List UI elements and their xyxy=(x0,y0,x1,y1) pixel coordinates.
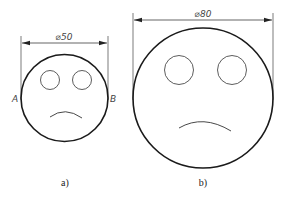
point-label-a: A xyxy=(11,94,18,104)
point-label-b: B xyxy=(110,94,116,104)
figure-a: ⌀50 A B a) xyxy=(11,32,116,189)
figure-b: ⌀80 b) xyxy=(133,9,273,189)
diagram-canvas: ⌀50 A B a) ⌀80 b) xyxy=(0,0,286,203)
dimension-label: ⌀50 xyxy=(56,32,73,42)
right-eye xyxy=(218,56,247,85)
face-outline xyxy=(21,55,108,142)
face-outline xyxy=(133,28,273,168)
frown-mouth xyxy=(50,112,82,118)
dimension-label: ⌀80 xyxy=(195,9,212,19)
figure-caption-b: b) xyxy=(199,177,207,189)
left-eye xyxy=(41,71,60,90)
right-eye xyxy=(73,71,92,90)
figure-caption-a: a) xyxy=(61,177,69,189)
left-eye xyxy=(165,56,194,85)
frown-mouth xyxy=(179,122,231,131)
